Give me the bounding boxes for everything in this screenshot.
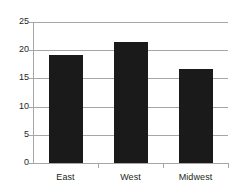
x-tick-label-west: West xyxy=(98,172,163,182)
y-tick-label: 0 xyxy=(0,158,29,167)
y-tick-label: 20 xyxy=(0,45,29,54)
bar-chart: 0510152025 EastWestMidwest xyxy=(0,0,241,196)
x-tick-mark xyxy=(98,163,99,168)
y-tick-label: 15 xyxy=(0,73,29,82)
y-tick-label: 25 xyxy=(0,17,29,26)
bar-midwest xyxy=(179,69,213,163)
bar-west xyxy=(114,42,148,163)
x-axis-line xyxy=(33,163,229,164)
bar-series xyxy=(33,22,228,163)
x-tick-label-east: East xyxy=(33,172,98,182)
y-tick-label: 10 xyxy=(0,102,29,111)
x-tick-label-midwest: Midwest xyxy=(163,172,228,182)
bar-east xyxy=(49,55,83,163)
x-tick-mark xyxy=(163,163,164,168)
y-tick-label: 5 xyxy=(0,130,29,139)
x-tick-mark xyxy=(228,163,229,168)
